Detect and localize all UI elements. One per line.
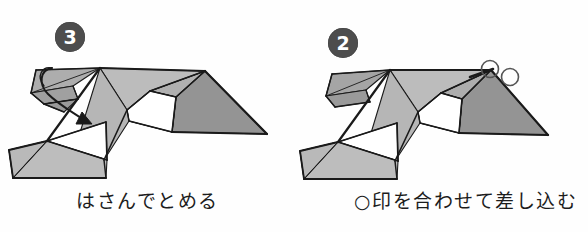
diagram-sheet: 3 はさんでとめる 2 ○印を合わせて差し込む (0, 0, 588, 232)
step-caption-3: はさんでとめる (76, 186, 219, 213)
crease-crease-white-vert (397, 123, 398, 161)
step-caption-2: ○印を合わせて差し込む (354, 186, 577, 213)
crease-crease-white-vert (106, 122, 107, 160)
step-panel-3: 3 はさんでとめる (0, 0, 294, 232)
circle-mark-right (502, 69, 519, 86)
step-panel-2: 2 ○印を合わせて差し込む (294, 0, 588, 232)
